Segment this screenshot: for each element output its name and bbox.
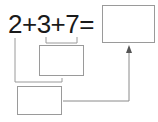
arrow-head-icon xyxy=(126,45,132,53)
bracket-2-3 xyxy=(15,38,62,82)
connector-lines xyxy=(0,0,158,122)
bracket-3-7 xyxy=(46,37,77,43)
arrow-line xyxy=(63,52,129,101)
